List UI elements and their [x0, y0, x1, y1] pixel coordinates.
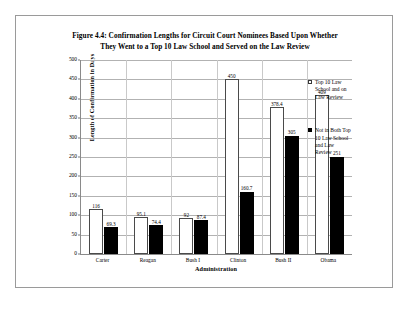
bar-value-label: 95.1	[137, 212, 146, 217]
figure-frame: Figure 4.4: Confirmation Lengths for Cir…	[15, 15, 393, 288]
x-axis-tick-label: Obama	[321, 258, 337, 263]
bar-value-label: 87.4	[197, 215, 206, 220]
bar-value-label: 305	[288, 130, 296, 135]
bar-value-label: 378.4	[271, 102, 283, 107]
bar[interactable]: 87.4	[194, 220, 208, 254]
bar[interactable]: 92	[179, 218, 193, 254]
bar[interactable]: 305	[285, 136, 299, 254]
x-axis-tick-label: Carter	[96, 258, 109, 263]
bar[interactable]: 378.4	[270, 107, 284, 254]
y-axis-tick-label: 100	[69, 212, 77, 217]
light-square-icon	[308, 80, 312, 84]
bar-value-label: 69.3	[107, 222, 116, 227]
legend-label-line: and Law	[315, 142, 378, 149]
bar-value-label: 74.4	[152, 220, 161, 225]
bar-group: 450160.7	[217, 60, 262, 254]
legend-entry[interactable]: Top 10 LawSchool and onLaw Review	[308, 79, 378, 101]
bar-value-label: 160.7	[241, 186, 253, 191]
bar[interactable]: 160.7	[240, 192, 254, 254]
x-axis-tick-label: Reagan	[140, 258, 156, 263]
dark-square-icon	[308, 128, 312, 132]
legend-label-line: 10 Law School	[315, 135, 378, 142]
legend-label-line: Review	[315, 149, 378, 156]
bar-group: 378.4305	[262, 60, 307, 254]
chart-legend: Top 10 LawSchool and onLaw ReviewNot in …	[308, 79, 378, 183]
y-axis-tick-label: 500	[69, 57, 77, 62]
bar[interactable]: 116	[89, 209, 103, 254]
legend-entry[interactable]: Not in Both Top10 Law Schooland LawRevie…	[308, 127, 378, 157]
y-axis-tick-label: 50	[72, 232, 77, 237]
legend-label-line: School and on	[315, 86, 378, 93]
y-axis-tick-label: 150	[69, 193, 77, 198]
bar[interactable]: 74.4	[149, 225, 163, 254]
x-axis-tick-label: Bush II	[275, 258, 291, 263]
bar[interactable]: 95.1	[134, 217, 148, 254]
y-axis-tick-label: 250	[69, 154, 77, 159]
bar-group: 95.174.4	[126, 60, 171, 254]
legend-label-line: Not in Both Top	[315, 127, 378, 134]
bar-group: 9287.4	[171, 60, 216, 254]
y-axis-tick-label: 300	[69, 135, 77, 140]
y-axis-tick-labels: 050100150200250300350400450500	[63, 60, 80, 254]
legend-label-line: Law Review	[315, 94, 378, 101]
y-axis-tick-label: 200	[69, 174, 77, 179]
y-axis-tick-label: 350	[69, 115, 77, 120]
y-axis-tick-label: 450	[69, 77, 77, 82]
bar[interactable]: 69.3	[104, 227, 118, 254]
x-axis-title: Administration	[80, 265, 352, 272]
y-axis-tick-label: 400	[69, 96, 77, 101]
bar[interactable]: 450	[225, 79, 239, 254]
bar-value-label: 92	[184, 213, 189, 218]
x-axis-tick-label: Bush I	[186, 258, 200, 263]
bar-value-label: 450	[228, 74, 236, 79]
x-axis-tick-label: Clinton	[230, 258, 246, 263]
bar-group: 11669.3	[81, 60, 126, 254]
legend-label-line: Top 10 Law	[315, 79, 378, 86]
bar-value-label: 116	[92, 204, 100, 209]
